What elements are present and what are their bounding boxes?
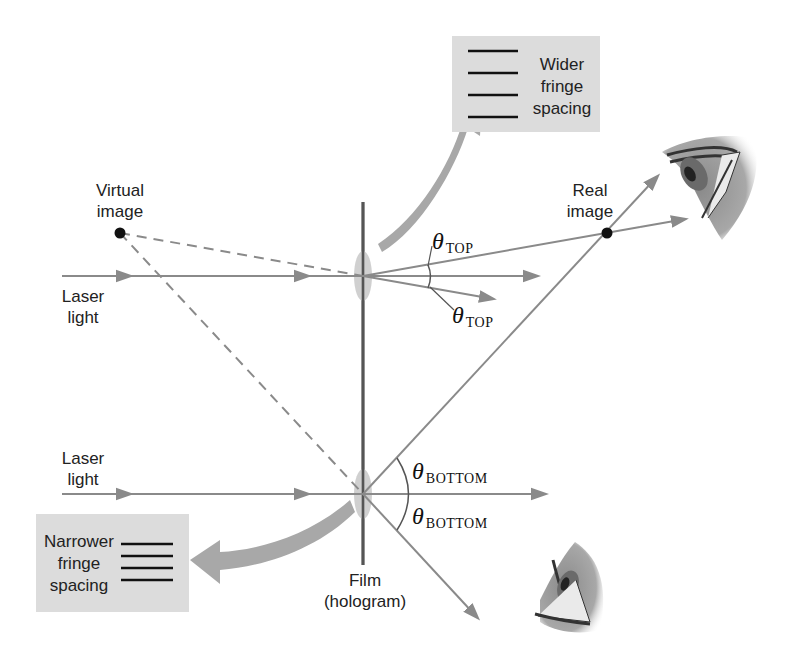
theta-top-upper: θTOP [432,228,474,255]
laser-light-bottom-label: Laser light [58,448,108,490]
wider-line-1: Wider [528,54,596,76]
theta-top-lower: θTOP [452,302,494,329]
film-label: Film (hologram) [315,570,415,612]
eye-icon-bottom-right [535,542,603,632]
virtual-dash-bottom [120,233,363,494]
theta-bottom-upper: θBOTTOM [412,458,488,485]
narrower-fringe-callout: Narrower fringe spacing [36,514,189,612]
wider-fringe-callout: Wider fringe spacing [452,36,600,132]
narrower-line-3: spacing [40,575,118,597]
wider-line-3: spacing [528,98,596,120]
narrower-line-2: fringe [40,553,118,575]
ray-top-down [363,276,488,298]
hologram-diagram: Wider fringe spacing Narrower fringe spa… [0,0,788,651]
theta-bottom-lower: θBOTTOM [412,503,488,530]
laser-light-top-label: Laser light [58,286,108,328]
virtual-image-point [115,228,126,239]
narrower-line-1: Narrower [40,531,118,553]
virtual-image-label: Virtual image [88,180,152,222]
wider-line-2: fringe [528,76,596,98]
real-image-label: Real image [560,180,620,222]
virtual-dash-top [120,233,363,276]
real-image-point [602,228,613,239]
eye-icon-top-right [662,136,757,240]
